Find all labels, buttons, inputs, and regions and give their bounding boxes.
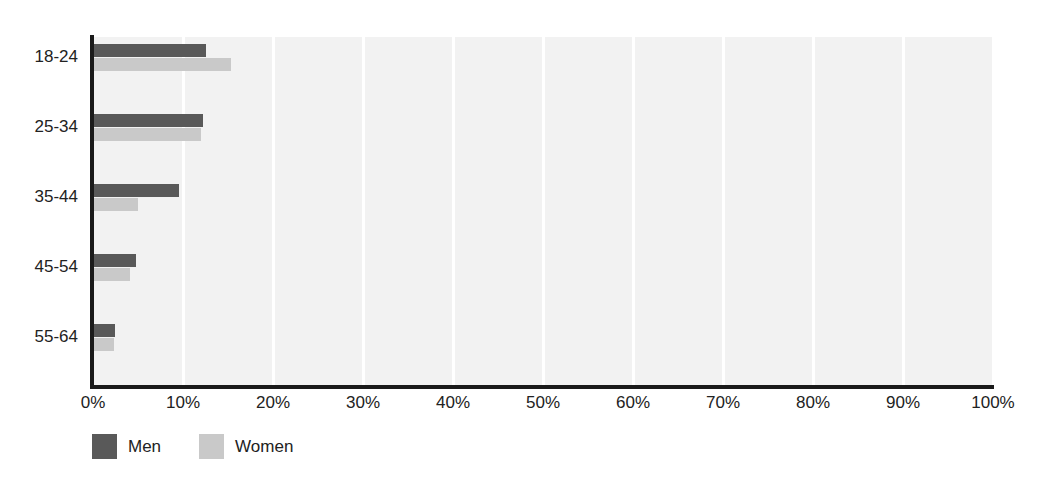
x-tick-10%: 10% [138,393,228,413]
y-axis-line [90,35,94,389]
bar-women-25-34[interactable] [93,128,201,141]
bar-group [93,247,993,317]
x-axis-line [90,385,994,389]
bar-women-18-24[interactable] [93,58,231,71]
x-tick-50%: 50% [498,393,588,413]
legend-item-men[interactable]: Men [92,434,161,459]
plot-area [93,37,993,387]
legend-label-women: Women [235,437,293,457]
x-tick-40%: 40% [408,393,498,413]
bar-group [93,317,993,387]
bar-men-35-44[interactable] [93,184,179,197]
bar-men-25-34[interactable] [93,114,203,127]
legend-item-women[interactable]: Women [199,434,293,459]
legend-label-men: Men [128,437,161,457]
bar-chart: 18-2425-3435-4445-5455-64 0%10%20%30%40%… [0,0,1043,483]
legend-swatch-men [92,434,117,459]
chart-legend: MenWomen [92,434,331,459]
legend-swatch-women [199,434,224,459]
category-label-18-24: 18-24 [0,47,78,67]
x-tick-100%: 100% [948,393,1038,413]
x-tick-20%: 20% [228,393,318,413]
category-label-45-54: 45-54 [0,257,78,277]
x-tick-90%: 90% [858,393,948,413]
x-tick-30%: 30% [318,393,408,413]
bar-men-45-54[interactable] [93,254,136,267]
bar-women-35-44[interactable] [93,198,138,211]
x-tick-70%: 70% [678,393,768,413]
bar-men-18-24[interactable] [93,44,206,57]
category-label-35-44: 35-44 [0,187,78,207]
bar-group [93,37,993,107]
bar-women-55-64[interactable] [93,338,114,351]
bar-group [93,107,993,177]
x-tick-80%: 80% [768,393,858,413]
bar-group [93,177,993,247]
x-tick-60%: 60% [588,393,678,413]
category-label-55-64: 55-64 [0,327,78,347]
bar-women-45-54[interactable] [93,268,130,281]
chart-title [0,0,1043,6]
category-label-25-34: 25-34 [0,117,78,137]
bar-men-55-64[interactable] [93,324,115,337]
x-tick-0%: 0% [48,393,138,413]
